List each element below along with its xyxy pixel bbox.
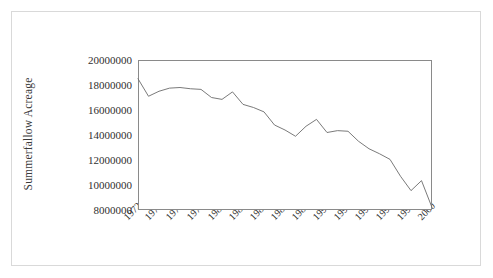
series-polyline: [138, 79, 432, 208]
chart-area: Summerfallow Acreage 2000000018000000160…: [0, 0, 493, 278]
data-line-series: [138, 60, 432, 210]
chart-figure: Summerfallow Acreage 2000000018000000160…: [0, 0, 493, 278]
